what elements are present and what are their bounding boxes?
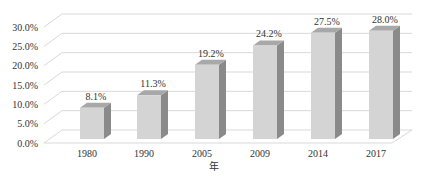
data-label: 28.0% [372,14,398,25]
gridline-diagonal [44,53,62,66]
bar-front [253,45,277,139]
bar: 19.2% [195,48,226,139]
bar-front [137,95,161,139]
bar-front [80,108,104,139]
bar-side [393,26,400,139]
bar: 11.3% [137,78,168,139]
x-tick-label: 2017 [366,148,386,159]
bar-side [161,90,168,139]
bar-side [219,60,226,139]
bar: 28.0% [369,14,400,139]
y-tick-label: 10.0% [12,99,38,110]
bar-side [277,40,284,139]
x-axis-title: 年 [209,160,219,172]
y-tick-label: 30.0% [12,22,38,33]
x-tick-label: 2005 [192,148,212,159]
data-label: 24.2% [256,28,282,39]
bar-chart: 0.0%5.0%10.0%15.0%20.0%25.0%30.0% 8.1%11… [0,0,424,177]
gridline-diagonal [44,91,62,104]
gridline-diagonal [44,130,62,143]
data-label: 8.1% [86,91,107,102]
gridline-diagonal [44,33,62,46]
bar-side [335,28,342,139]
y-tick-label: 20.0% [12,60,38,71]
gridline-diagonal [44,14,62,27]
x-tick-label: 2009 [250,148,270,159]
x-tick-label: 2014 [308,148,328,159]
bar-front [369,31,393,139]
bar-front [311,33,335,139]
bar: 8.1% [80,91,111,139]
x-axis-ticks: 198019902005200920142017 [77,148,386,159]
y-tick-label: 0.0% [17,138,38,149]
y-tick-label: 15.0% [12,80,38,91]
bar: 27.5% [311,16,342,139]
x-tick-label: 1980 [77,148,97,159]
bars: 8.1%11.3%19.2%24.2%27.5%28.0% [80,14,400,139]
data-label: 11.3% [140,78,165,89]
y-tick-label: 5.0% [17,118,38,129]
bar-front [195,65,219,139]
data-label: 19.2% [198,48,224,59]
gridline-diagonal [44,111,62,124]
y-tick-label: 25.0% [12,41,38,52]
data-label: 27.5% [314,16,340,27]
gridline-diagonal [44,72,62,85]
y-axis-ticks: 0.0%5.0%10.0%15.0%20.0%25.0%30.0% [12,22,38,149]
bar-side [104,103,111,139]
bar: 24.2% [253,28,284,139]
x-tick-label: 1990 [134,148,154,159]
